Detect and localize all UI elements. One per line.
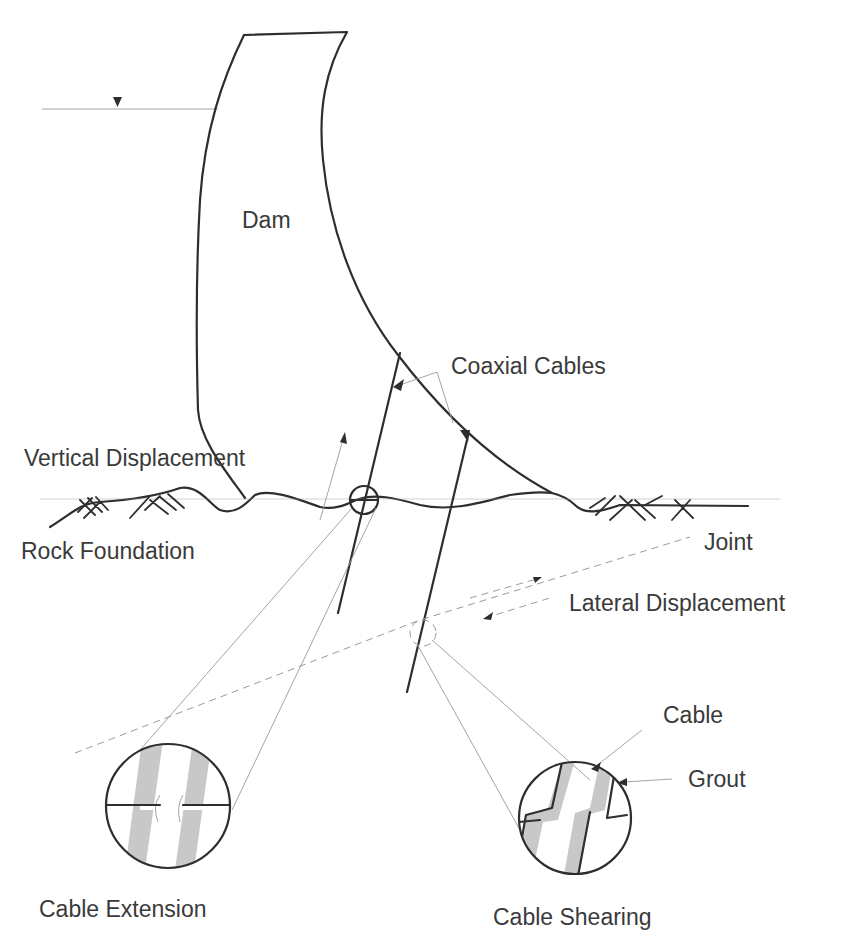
- coaxial-cables-callout: [393, 372, 470, 442]
- vertical-displacement-label: Vertical Displacement: [24, 447, 245, 470]
- rock-foundation-label: Rock Foundation: [21, 540, 195, 563]
- cable-extension-detail: [106, 740, 230, 870]
- cable-shearing-detail: [518, 760, 631, 880]
- diagram-drawing: [0, 0, 864, 951]
- cable-label: Cable: [663, 704, 723, 727]
- shearing-magnifier-guides: [417, 640, 590, 830]
- coaxial-cable-2: [407, 440, 467, 692]
- water-level: [42, 97, 218, 109]
- extension-zone-marker: [350, 486, 378, 514]
- grout-label: Grout: [688, 768, 746, 791]
- rock-hatching-left: [78, 494, 184, 518]
- dam-cable-diagram: Dam Coaxial Cables Vertical Displacement…: [0, 0, 864, 951]
- rock-hatching-right: [590, 496, 693, 520]
- dam-body: [197, 32, 552, 498]
- coaxial-cable-1: [338, 353, 400, 613]
- joint-line: [75, 537, 690, 753]
- water-level-marker-icon: [113, 97, 122, 107]
- cable-shearing-label: Cable Shearing: [493, 906, 652, 929]
- cable-extension-label: Cable Extension: [39, 898, 207, 921]
- lateral-displacement-label: Lateral Displacement: [569, 592, 785, 615]
- joint-label: Joint: [704, 531, 753, 554]
- dam-label: Dam: [242, 209, 291, 232]
- coaxial-cables-label: Coaxial Cables: [451, 355, 606, 378]
